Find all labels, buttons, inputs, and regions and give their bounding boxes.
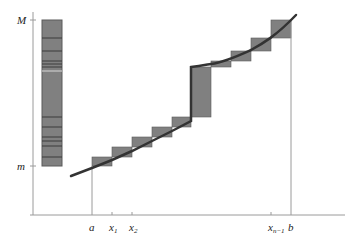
step-rect (191, 67, 211, 117)
x-label: x1 (108, 221, 117, 235)
x-label: a (89, 221, 95, 233)
x-label: x2 (128, 221, 138, 235)
x-label: b (288, 221, 294, 233)
label-m: m (17, 160, 25, 172)
x-label: xn−1 (267, 221, 285, 235)
x-axis-labels: ax1x2xn−1b (89, 221, 294, 235)
riemann-diagram: M m ax1x2xn−1b (0, 0, 363, 240)
range-bar (42, 20, 62, 166)
range-bar-rect (42, 20, 62, 166)
label-M: M (16, 14, 27, 26)
